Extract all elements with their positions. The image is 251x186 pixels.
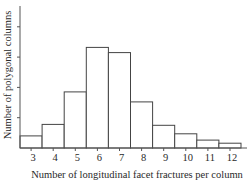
histogram-bar	[64, 92, 86, 148]
x-tick-label: 5	[75, 152, 80, 163]
x-tick-label: 8	[141, 152, 146, 163]
histogram-bar	[175, 134, 197, 148]
histogram-bar	[20, 136, 42, 148]
x-axis-label: Number of longitudinal facet fractures p…	[31, 169, 243, 180]
histogram-bar	[86, 47, 108, 148]
y-axis-label: Number of polygonal columns	[2, 11, 13, 140]
bars-group	[20, 47, 241, 148]
histogram-bar	[42, 124, 64, 148]
x-tick-label: 4	[53, 152, 59, 163]
x-axis-ticks: 3456789101112	[30, 148, 237, 163]
x-tick-label: 7	[119, 152, 124, 163]
histogram-bar	[131, 102, 153, 148]
x-tick-label: 3	[30, 152, 35, 163]
x-tick-label: 6	[97, 152, 102, 163]
histogram-chart: 3456789101112 Number of polygonal column…	[0, 0, 251, 186]
x-tick-label: 12	[227, 152, 238, 163]
histogram-bar	[197, 140, 219, 148]
histogram-bar	[219, 143, 241, 148]
x-tick-label: 11	[205, 152, 215, 163]
chart-canvas: 3456789101112 Number of polygonal column…	[0, 0, 251, 186]
histogram-bar	[108, 53, 130, 148]
x-tick-label: 10	[183, 152, 194, 163]
histogram-bar	[153, 125, 175, 148]
x-tick-label: 9	[163, 152, 168, 163]
